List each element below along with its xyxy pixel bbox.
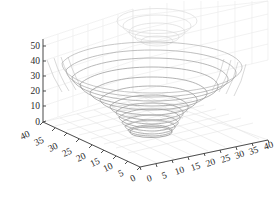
plot-3d-paraboloid: 50 40 30 20 10 0 40 35 30 25 20 15 10 5 … [0, 0, 280, 204]
z-tick-label: 20 [31, 86, 41, 96]
z-tick-label: 0 [35, 117, 40, 127]
z-tick-label: 30 [31, 71, 41, 81]
z-tick-label: 10 [31, 101, 41, 111]
figure-background [0, 0, 280, 204]
z-tick-label: 40 [31, 56, 41, 66]
z-tick-label: 50 [31, 41, 41, 51]
figure-canvas: 50 40 30 20 10 0 40 35 30 25 20 15 10 5 … [0, 0, 280, 204]
